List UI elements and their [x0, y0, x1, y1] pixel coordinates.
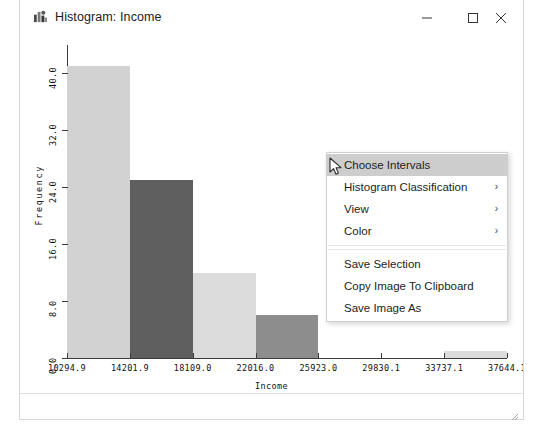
histogram-bar[interactable]	[256, 315, 319, 358]
y-tick	[62, 130, 68, 131]
x-tick	[67, 353, 68, 358]
chevron-right-icon: ›	[495, 220, 498, 242]
resize-grip-icon[interactable]	[509, 407, 519, 417]
y-tick	[62, 73, 68, 74]
histogram-bar[interactable]	[193, 273, 256, 358]
x-tick	[318, 353, 319, 358]
x-tick	[256, 353, 257, 358]
x-axis-line	[67, 358, 507, 359]
y-tick	[62, 244, 68, 245]
x-tick-label: 33737.1	[414, 363, 474, 373]
histogram-app-icon	[33, 10, 48, 24]
x-axis-title: Income	[20, 381, 523, 391]
x-tick-label: 37644.1	[477, 363, 523, 373]
x-tick	[381, 353, 382, 358]
menu-item-save-selection[interactable]: Save Selection	[327, 253, 507, 275]
y-tick	[62, 358, 68, 359]
y-tick-label: 8.0	[48, 285, 58, 317]
x-tick-label: 18109.0	[163, 363, 223, 373]
histogram-bar[interactable]	[444, 351, 507, 358]
menu-separator	[328, 245, 506, 246]
y-tick-label: 32.0	[48, 114, 58, 146]
y-tick-label: 40.0	[48, 57, 58, 89]
menu-item-label: Copy Image To Clipboard	[344, 280, 474, 292]
menu-item-label: Color	[344, 225, 371, 237]
histogram-bar[interactable]	[67, 66, 130, 358]
menu-item-label: Histogram Classification	[344, 181, 467, 193]
y-tick-label: 24.0	[48, 171, 58, 203]
x-tick	[444, 353, 445, 358]
window-title: Histogram: Income	[55, 10, 162, 24]
y-tick	[62, 187, 68, 188]
menu-item-label: Choose Intervals	[344, 159, 430, 171]
x-tick-label: 22016.0	[226, 363, 286, 373]
chevron-right-icon: ›	[495, 176, 498, 198]
x-tick	[130, 353, 131, 358]
x-tick-label: 10294.9	[37, 363, 97, 373]
x-tick-label: 14201.9	[100, 363, 160, 373]
histogram-window: Histogram: Income 0.08.016.024.032.040.0…	[19, 0, 524, 420]
histogram-bar[interactable]	[130, 180, 193, 358]
minimize-button[interactable]	[404, 0, 450, 36]
menu-item-label: View	[344, 203, 369, 215]
x-tick-label: 29830.1	[351, 363, 411, 373]
menu-separator	[328, 249, 506, 250]
x-tick-label: 25923.0	[288, 363, 348, 373]
y-tick	[62, 301, 68, 302]
x-tick	[193, 353, 194, 358]
context-menu[interactable]: Choose IntervalsHistogram Classification…	[326, 152, 508, 322]
y-tick-label: 16.0	[48, 228, 58, 260]
menu-item-label: Save Image As	[344, 302, 421, 314]
title-bar[interactable]: Histogram: Income	[20, 0, 523, 37]
menu-item-copy-image-to-clipboard[interactable]: Copy Image To Clipboard	[327, 275, 507, 297]
menu-item-color[interactable]: Color›	[327, 220, 507, 242]
y-axis-title: Frequency	[34, 165, 44, 225]
x-tick	[507, 353, 508, 358]
chevron-right-icon: ›	[495, 198, 498, 220]
menu-item-view[interactable]: View›	[327, 198, 507, 220]
status-bar	[20, 393, 523, 419]
close-button[interactable]	[478, 0, 524, 36]
menu-item-histogram-classification[interactable]: Histogram Classification›	[327, 176, 507, 198]
menu-item-label: Save Selection	[344, 258, 421, 270]
menu-item-save-image-as[interactable]: Save Image As	[327, 297, 507, 319]
menu-item-choose-intervals[interactable]: Choose Intervals	[327, 154, 507, 176]
